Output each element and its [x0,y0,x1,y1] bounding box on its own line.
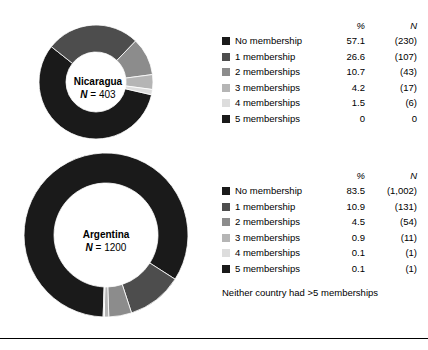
nicaragua-legend-category: 2 memberships [235,64,331,80]
argentina-legend-row: 3 memberships0.9(11) [222,230,417,246]
argentina-legend-swatch [222,230,235,246]
argentina-legend-header-percent: % [331,168,365,183]
bottom-divider [0,338,428,339]
argentina-legend-body: No membership83.5(1,002)1 membership10.9… [222,183,417,276]
argentina-legend-swatch [222,245,235,261]
argentina-legend-table: % N No membership83.5(1,002)1 membership… [222,168,417,276]
nicaragua-legend: % N No membership57.1(230)1 membership26… [222,18,417,126]
argentina-legend-category: 5 memberships [235,261,331,277]
argentina-legend-percent: 0.1 [331,261,365,277]
nicaragua-legend-header-row: % N [222,18,417,33]
argentina-legend-count: (11) [365,230,417,246]
nicaragua-legend-category: 3 memberships [235,80,331,96]
nicaragua-legend-count: (43) [365,64,417,80]
color-swatch-icon [222,99,230,107]
argentina-legend-header-n: N [365,168,417,183]
nicaragua-legend-swatch [222,111,235,127]
argentina-legend-category: 4 memberships [235,245,331,261]
color-swatch-icon [222,249,230,257]
nicaragua-legend-header-n: N [365,18,417,33]
argentina-legend-row: No membership83.5(1,002) [222,183,417,199]
argentina-legend-category: No membership [235,183,331,199]
color-swatch-icon [222,68,230,76]
color-swatch-icon [222,187,230,195]
nicaragua-legend-body: No membership57.1(230)1 membership26.6(1… [222,33,417,126]
chart-page: Nicaragua N = 403 Argentina N = 1200 % N [0,0,428,350]
color-swatch-icon [222,37,230,45]
nicaragua-legend-category: 4 memberships [235,95,331,111]
nicaragua-legend-count: 0 [365,111,417,127]
argentina-legend-swatch [222,214,235,230]
argentina-legend-count: (1) [365,261,417,277]
argentina-legend-swatch [222,261,235,277]
color-swatch-icon [222,218,230,226]
argentina-legend-row: 5 memberships0.1(1) [222,261,417,277]
argentina-legend-count: (54) [365,214,417,230]
argentina-legend-swatch [222,199,235,215]
argentina-legend-percent: 0.9 [331,230,365,246]
nicaragua-legend-row: 2 memberships10.7(43) [222,64,417,80]
nicaragua-legend-category: 5 memberships [235,111,331,127]
argentina-legend-category: 3 memberships [235,230,331,246]
argentina-donut-chart: Argentina N = 1200 [6,150,206,320]
argentina-legend-count: (1) [365,245,417,261]
nicaragua-legend-table: % N No membership57.1(230)1 membership26… [222,18,417,126]
nicaragua-legend-category: 1 membership [235,49,331,65]
nicaragua-legend-swatch [222,80,235,96]
argentina-donut-ring: Argentina N = 1200 [6,150,206,320]
argentina-legend-percent: 4.5 [331,214,365,230]
argentina-legend-row: 1 membership10.9(131) [222,199,417,215]
nicaragua-legend-row: No membership57.1(230) [222,33,417,49]
argentina-legend-category: 1 membership [235,199,331,215]
nicaragua-legend-percent: 0 [331,111,365,127]
argentina-legend: % N No membership83.5(1,002)1 membership… [222,168,417,276]
nicaragua-legend-percent: 1.5 [331,95,365,111]
argentina-legend-percent: 83.5 [331,183,365,199]
nicaragua-legend-row: 4 memberships1.5(6) [222,95,417,111]
argentina-donut-svg [6,150,206,320]
legend-header-category [235,168,331,183]
nicaragua-legend-count: (107) [365,49,417,65]
nicaragua-legend-percent: 26.6 [331,49,365,65]
legend-header-category [235,18,331,33]
legend-header-spacer [222,168,235,183]
argentina-legend-count: (131) [365,199,417,215]
color-swatch-icon [222,115,230,123]
nicaragua-legend-category: No membership [235,33,331,49]
color-swatch-icon [222,265,230,273]
nicaragua-legend-count: (230) [365,33,417,49]
argentina-legend-percent: 10.9 [331,199,365,215]
nicaragua-donut-ring: Nicaragua N = 403 [18,22,178,142]
argentina-legend-swatch [222,183,235,199]
nicaragua-legend-percent: 10.7 [331,64,365,80]
legend-header-spacer [222,18,235,33]
nicaragua-legend-swatch [222,33,235,49]
nicaragua-legend-row: 1 membership26.6(107) [222,49,417,65]
argentina-legend-category: 2 memberships [235,214,331,230]
color-swatch-icon [222,234,230,242]
argentina-legend-count: (1,002) [365,183,417,199]
nicaragua-legend-count: (17) [365,80,417,96]
nicaragua-legend-swatch [222,95,235,111]
nicaragua-legend-header-percent: % [331,18,365,33]
argentina-legend-row: 2 memberships4.5(54) [222,214,417,230]
nicaragua-legend-count: (6) [365,95,417,111]
color-swatch-icon [222,84,230,92]
nicaragua-legend-percent: 4.2 [331,80,365,96]
chart-footnote: Neither country had >5 memberships [222,287,378,298]
nicaragua-legend-row: 5 memberships00 [222,111,417,127]
color-swatch-icon [222,53,230,61]
nicaragua-legend-swatch [222,49,235,65]
nicaragua-legend-row: 3 memberships4.2(17) [222,80,417,96]
nicaragua-legend-percent: 57.1 [331,33,365,49]
nicaragua-donut-svg [18,22,178,142]
argentina-legend-header-row: % N [222,168,417,183]
nicaragua-donut-chart: Nicaragua N = 403 [18,22,178,142]
nicaragua-legend-swatch [222,64,235,80]
argentina-legend-row: 4 memberships0.1(1) [222,245,417,261]
argentina-legend-percent: 0.1 [331,245,365,261]
color-swatch-icon [222,203,230,211]
